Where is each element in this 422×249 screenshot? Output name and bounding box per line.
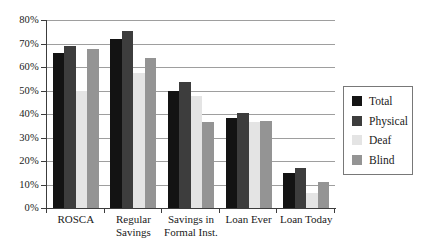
x-label-2: Savings inFormal Inst.	[162, 213, 220, 239]
legend-swatch-total	[352, 96, 362, 106]
x-label-0-line-0: ROSCA	[47, 213, 105, 226]
x-label-2-line-1: Formal Inst.	[162, 226, 220, 239]
x-label-3-line-0: Loan Ever	[220, 213, 278, 226]
bar-deaf-2	[191, 96, 203, 208]
y-tick-30	[41, 138, 46, 139]
x-label-1-line-0: Regular	[105, 213, 163, 226]
legend-item-physical: Physical	[352, 115, 412, 127]
legend-item-blind: Blind	[352, 154, 412, 166]
y-tick-label-60: 60%	[9, 61, 39, 73]
x-label-2-line-0: Savings in	[162, 213, 220, 226]
bar-deaf-0	[76, 91, 88, 209]
bar-total-3	[226, 118, 238, 208]
x-axis-line	[46, 208, 336, 209]
legend: TotalPhysicalDeafBlind	[343, 86, 413, 175]
bar-physical-4	[295, 168, 307, 208]
x-label-4: Loan Today	[277, 213, 335, 226]
y-tick-40	[41, 114, 46, 115]
bar-group-1	[105, 20, 163, 208]
y-tick-60	[41, 67, 46, 68]
x-label-3: Loan Ever	[220, 213, 278, 226]
bar-group-2	[162, 20, 220, 208]
bar-deaf-1	[133, 73, 145, 208]
y-tick-label-10: 10%	[9, 179, 39, 191]
legend-item-deaf: Deaf	[352, 134, 412, 146]
bar-groups	[47, 20, 335, 208]
y-tick-20	[41, 161, 46, 162]
y-tick-label-50: 50%	[9, 85, 39, 97]
y-tick-70	[41, 44, 46, 45]
bar-group-3	[220, 20, 278, 208]
legend-item-total: Total	[352, 95, 412, 107]
bar-chart-figure: 0%10%20%30%40%50%60%70%80% ROSCARegularS…	[0, 0, 422, 249]
bar-blind-4	[318, 182, 330, 208]
legend-label-blind: Blind	[369, 154, 395, 166]
bar-blind-2	[202, 122, 214, 208]
bar-total-1	[110, 39, 122, 208]
y-tick-label-0: 0%	[9, 202, 39, 214]
bar-group-0	[47, 20, 105, 208]
legend-label-physical: Physical	[369, 115, 408, 127]
y-tick-50	[41, 91, 46, 92]
bar-deaf-3	[249, 122, 261, 208]
x-label-1-line-1: Savings	[105, 226, 163, 239]
x-label-1: RegularSavings	[105, 213, 163, 239]
y-tick-label-30: 30%	[9, 132, 39, 144]
y-tick-label-20: 20%	[9, 155, 39, 167]
legend-label-deaf: Deaf	[369, 134, 391, 146]
bar-total-2	[168, 91, 180, 209]
bar-total-4	[283, 173, 295, 208]
legend-swatch-blind	[352, 155, 362, 165]
bar-physical-2	[179, 82, 191, 208]
y-tick-80	[41, 20, 46, 21]
bar-group-4	[277, 20, 335, 208]
bar-physical-1	[122, 31, 134, 208]
bar-blind-1	[145, 58, 157, 208]
legend-swatch-deaf	[352, 135, 362, 145]
x-label-4-line-0: Loan Today	[277, 213, 335, 226]
y-tick-10	[41, 185, 46, 186]
bar-blind-3	[260, 121, 272, 208]
y-tick-label-80: 80%	[9, 14, 39, 26]
bar-total-0	[53, 53, 65, 208]
bar-deaf-4	[306, 193, 318, 208]
bar-blind-0	[87, 49, 99, 208]
y-tick-label-40: 40%	[9, 108, 39, 120]
y-tick-label-70: 70%	[9, 38, 39, 50]
bar-physical-0	[64, 46, 76, 208]
x-label-0: ROSCA	[47, 213, 105, 226]
legend-swatch-physical	[352, 116, 362, 126]
bar-physical-3	[237, 113, 249, 208]
legend-label-total: Total	[369, 95, 392, 107]
